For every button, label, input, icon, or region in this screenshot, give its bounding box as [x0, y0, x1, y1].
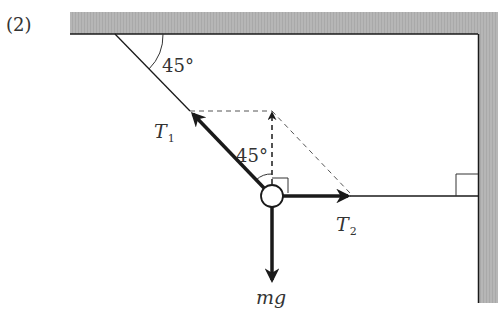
weight-label: mg — [256, 286, 286, 308]
t1-symbol: T — [154, 120, 168, 142]
ceiling-angle-label: 45° — [162, 55, 194, 76]
ceiling — [70, 12, 498, 34]
problem-number: (2) — [6, 14, 32, 35]
vertical-angle-arc — [256, 174, 272, 180]
wall-right-angle-mark — [456, 174, 478, 196]
component-dashed-lines — [190, 111, 350, 193]
t1-subscript: 1 — [168, 132, 175, 145]
right-wall — [478, 12, 498, 303]
force-diagram: (2) 45° 45° T1 T2 mg — [0, 0, 500, 322]
ball — [261, 185, 283, 207]
t2-symbol: T — [336, 213, 350, 235]
t1-label: T1 — [154, 120, 175, 145]
t2-subscript: 2 — [350, 225, 357, 238]
ceiling-angle-arc — [149, 34, 163, 69]
t2-label: T2 — [336, 213, 357, 238]
vertical-angle-label: 45° — [236, 145, 268, 166]
